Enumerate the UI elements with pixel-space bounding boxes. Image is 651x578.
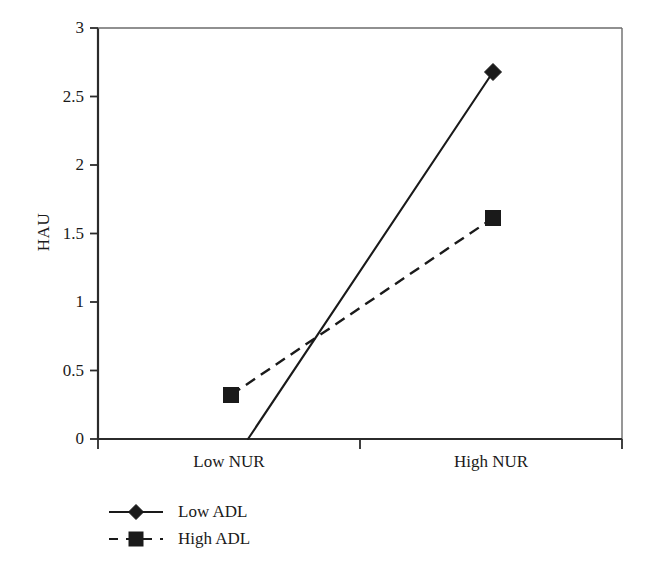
legend-swatches (109, 505, 163, 547)
legend-item-high-adl: High ADL (178, 529, 250, 549)
series-low-adl-marker-high-nur (485, 64, 502, 81)
legend-diamond-icon (129, 505, 144, 520)
x-tick-label-low-nur: Low NUR (159, 452, 299, 472)
series-high-adl-line (231, 218, 493, 395)
y-tick-label-1-5: 1.5 (30, 224, 84, 244)
series-high-adl (224, 211, 501, 403)
y-axis-ticks (90, 28, 98, 439)
series-low-adl (248, 64, 502, 440)
y-tick-label-2-5: 2.5 (30, 87, 84, 107)
x-axis-ticks (98, 439, 622, 449)
y-tick-label-2: 2 (30, 155, 84, 175)
series-low-adl-line (248, 72, 493, 439)
y-tick-label-0: 0 (30, 429, 84, 449)
x-tick-label-high-nur: High NUR (421, 452, 561, 472)
legend-square-icon (129, 532, 143, 546)
line-chart-canvas (0, 0, 651, 578)
y-tick-label-1: 1 (30, 292, 84, 312)
y-tick-label-3: 3 (30, 18, 84, 38)
series-high-adl-marker-low-nur (224, 388, 239, 403)
series-high-adl-marker-high-nur (486, 211, 501, 226)
y-tick-label-0-5: 0.5 (30, 361, 84, 381)
legend-item-low-adl: Low ADL (178, 502, 247, 522)
plot-frame (98, 28, 622, 439)
chart-figure: HAU 3 2.5 2 1.5 1 0.5 0 Low NUR High NUR… (0, 0, 651, 578)
